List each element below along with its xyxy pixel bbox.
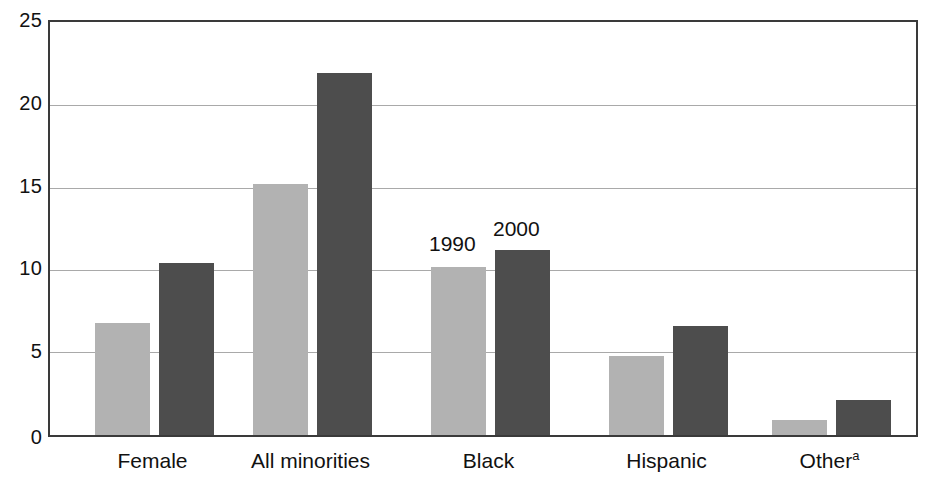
y-axis: 25 20 15 10 5 0 <box>0 0 42 492</box>
bar-black-2000[interactable] <box>495 250 550 435</box>
series-annotation-2000: 2000 <box>493 218 540 239</box>
bar-hispanic-2000[interactable] <box>673 326 728 435</box>
x-label-other: Othera <box>770 448 889 474</box>
bar-other-1990[interactable] <box>772 420 827 435</box>
x-label-female: Female <box>93 448 212 474</box>
bar-female-1990[interactable] <box>95 323 150 435</box>
x-label-all-minorities: All minorities <box>228 448 393 474</box>
x-axis: Female All minorities Black Hispanic Oth… <box>48 448 918 492</box>
y-tick-20: 20 <box>2 93 42 113</box>
bars-layer <box>50 22 916 435</box>
x-label-other-text: Other <box>800 449 853 472</box>
series-annotation-1990: 1990 <box>429 233 476 254</box>
plot-area: 1990 2000 <box>48 20 918 437</box>
y-tick-0: 0 <box>2 427 42 447</box>
y-tick-15: 15 <box>2 176 42 196</box>
y-tick-5: 5 <box>2 341 42 361</box>
bar-other-2000[interactable] <box>836 400 891 435</box>
bar-female-2000[interactable] <box>159 263 214 435</box>
y-tick-25: 25 <box>2 10 42 30</box>
x-label-hispanic: Hispanic <box>598 448 735 474</box>
y-tick-10: 10 <box>2 258 42 278</box>
bar-all-minorities-1990[interactable] <box>253 184 308 435</box>
x-label-black: Black <box>429 448 548 474</box>
bar-chart: 25 20 15 10 5 0 1990 <box>0 0 928 492</box>
bar-all-minorities-2000[interactable] <box>317 73 372 435</box>
bar-hispanic-1990[interactable] <box>609 356 664 435</box>
x-label-other-superscript: a <box>852 448 859 463</box>
bar-black-1990[interactable] <box>431 267 486 436</box>
